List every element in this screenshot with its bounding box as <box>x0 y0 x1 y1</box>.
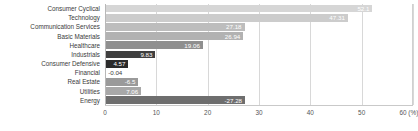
x-tick-label: 10 <box>153 109 160 116</box>
category-label: Industrials <box>71 50 100 59</box>
zero-axis-line <box>105 4 106 105</box>
x-tick-label: 30 <box>255 109 262 116</box>
bar-value-label: 4.57 <box>113 59 125 68</box>
category-label: Healthcare <box>70 41 100 50</box>
bar-value-label: 26.94 <box>225 32 240 41</box>
bar-row: 26.94 <box>105 32 412 41</box>
x-axis: 0102030405060 (%) <box>105 107 413 121</box>
bar[interactable] <box>105 14 348 22</box>
bar-row: 4.57 <box>105 59 412 68</box>
bar-value-label: -0.04 <box>108 68 122 77</box>
bar-row: 19.06 <box>105 41 412 50</box>
category-label: Utilities <box>80 87 100 96</box>
category-label: Technology <box>68 13 100 22</box>
bar-row: -27.28 <box>105 96 412 105</box>
x-tick-label: 20 <box>204 109 211 116</box>
plot-bottom-rule <box>105 105 413 106</box>
bar-value-label: -27.28 <box>224 96 242 105</box>
bar[interactable] <box>105 23 245 31</box>
bar-row: -0.04 <box>105 68 412 77</box>
bar-row: 52.1 <box>105 4 412 13</box>
bar-value-label: -6.5 <box>125 77 136 86</box>
bar-value-label: 47.31 <box>329 13 344 22</box>
bar-value-label: 52.1 <box>357 4 369 13</box>
bar-row: -6.5 <box>105 77 412 86</box>
bar-row: 7.06 <box>105 87 412 96</box>
category-label-column: Consumer CyclicalTechnologyCommunication… <box>0 4 102 105</box>
category-label: Basic Materials <box>57 32 100 41</box>
bar-value-label: 9.83 <box>140 50 152 59</box>
category-label: Consumer Cyclical <box>48 4 101 13</box>
x-tick-label: 40 <box>307 109 314 116</box>
x-tick-label: 50 <box>358 109 365 116</box>
gridline <box>413 4 414 105</box>
plot-area: 52.147.3127.1826.9419.069.834.57-0.04-6.… <box>105 4 413 105</box>
category-label: Communication Services <box>30 22 100 31</box>
category-label: Financial <box>75 68 100 77</box>
x-tick-label: 0 <box>103 109 107 116</box>
bar[interactable] <box>105 32 243 40</box>
bar-value-label: 7.06 <box>126 87 138 96</box>
bar-value-label: 19.06 <box>184 41 199 50</box>
x-tick-label: 60 (%) <box>399 109 418 116</box>
bar-row: 47.31 <box>105 13 412 22</box>
category-label: Energy <box>80 96 100 105</box>
bar-value-label: 27.18 <box>226 22 241 31</box>
bar-row: 27.18 <box>105 22 412 31</box>
bar-row: 9.83 <box>105 50 412 59</box>
bar[interactable] <box>105 5 372 13</box>
category-label: Real Estate <box>67 77 100 86</box>
category-label: Consumer Defensive <box>41 59 100 68</box>
